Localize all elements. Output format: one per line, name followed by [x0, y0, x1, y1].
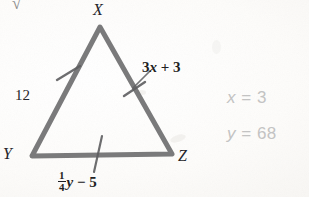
answer-y-value: 68 — [257, 124, 277, 143]
vertex-label-x: X — [93, 2, 103, 18]
expr-remainder: − 5 — [77, 174, 97, 190]
expr-coefficient: 3 — [142, 59, 150, 75]
answer-x-value: 3 — [257, 88, 267, 107]
vertex-label-y: Y — [3, 146, 12, 162]
vertex-label-z: Z — [178, 148, 187, 164]
answer-y-variable: y — [227, 124, 236, 143]
answer-x-equals: = — [241, 88, 251, 107]
side-expression-label-yz: 14y − 5 — [58, 170, 97, 193]
expr-variable: x — [150, 59, 158, 75]
answer-annotations: x = 3 y = 68 — [227, 88, 309, 160]
side-expression-label-xz: 3x + 3 — [142, 60, 181, 75]
expr-remainder: + 3 — [161, 59, 181, 75]
answer-x: x = 3 — [227, 88, 309, 108]
answer-y-equals: = — [241, 124, 251, 143]
fraction-one-fourth: 14 — [58, 170, 66, 193]
answer-x-variable: x — [227, 88, 236, 107]
expr-variable: y — [67, 174, 74, 190]
side-length-label-xy: 12 — [15, 88, 30, 103]
answer-y: y = 68 — [227, 124, 309, 144]
fraction-denominator: 4 — [58, 182, 66, 193]
